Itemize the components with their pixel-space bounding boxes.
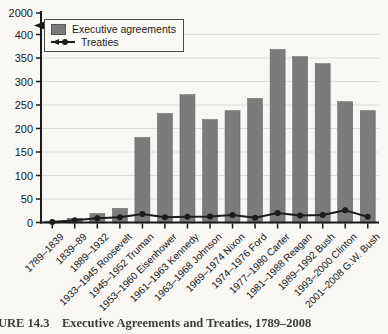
bar: [135, 137, 150, 223]
bar: [338, 102, 353, 223]
treaties-point: [320, 212, 326, 218]
bar: [180, 95, 195, 223]
bar: [270, 50, 285, 223]
treaties-point: [252, 215, 258, 221]
y-tick-label: 250: [15, 99, 33, 111]
treaties-point: [207, 213, 213, 219]
y-tick-label: 0: [27, 217, 33, 229]
treaties-point: [117, 214, 123, 220]
y-tick-label: 350: [15, 52, 33, 64]
bar: [293, 57, 308, 223]
treaties-point: [365, 214, 371, 220]
treaties-point: [230, 212, 236, 218]
figure-caption: URE 14.3 Executive Agreements and Treati…: [0, 316, 311, 331]
treaties-point: [72, 217, 78, 223]
y-tick-label: 50: [21, 193, 33, 205]
treaties-point: [139, 211, 145, 217]
treaties-point: [275, 210, 281, 216]
executive-agreements-swatch-icon: [51, 24, 66, 35]
bar: [203, 120, 218, 223]
legend-label-executive-agreements: Executive agreements: [72, 23, 176, 35]
treaties-point: [49, 219, 55, 225]
treaties-point: [184, 214, 190, 220]
y-tick-label: 100: [15, 170, 33, 182]
bar: [157, 113, 172, 223]
legend-label-treaties: Treaties: [81, 36, 119, 48]
legend-row-treaties: Treaties: [51, 36, 176, 48]
legend: Executive agreements Treaties: [44, 19, 184, 52]
treaties-point: [162, 214, 168, 220]
treaties-point: [297, 212, 303, 218]
bar: [315, 64, 330, 223]
bar: [360, 111, 375, 223]
y-tick-label: 150: [15, 146, 33, 158]
legend-row-executive-agreements: Executive agreements: [51, 23, 176, 35]
y-tick-label: 200: [15, 123, 33, 135]
treaties-line-marker-icon: [51, 37, 75, 47]
treaties-point: [342, 207, 348, 213]
treaties-point: [94, 215, 100, 221]
y-axis-break-top-label: 2000: [9, 7, 33, 19]
y-tick-label: 300: [15, 76, 33, 88]
x-axis-ticks: [52, 224, 367, 229]
bar: [248, 98, 263, 223]
bar: [225, 111, 240, 223]
bars-executive-agreements: [45, 50, 375, 223]
y-tick-label: 400: [15, 29, 33, 41]
